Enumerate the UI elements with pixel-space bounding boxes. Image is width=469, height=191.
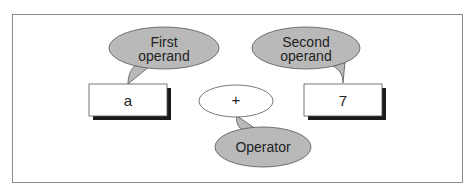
right-operand-value: 7 [304,92,382,109]
second-operand-line2: operand [260,49,352,63]
second-operand-label: Second operand [260,35,352,63]
operator-value: + [199,91,273,108]
first-operand-label: First operand [118,35,210,63]
second-operand-line1: Second [260,35,352,49]
left-operand-value: a [89,92,167,109]
operator-label: Operator [215,140,311,154]
first-operand-line1: First [118,35,210,49]
first-operand-line2: operand [118,49,210,63]
